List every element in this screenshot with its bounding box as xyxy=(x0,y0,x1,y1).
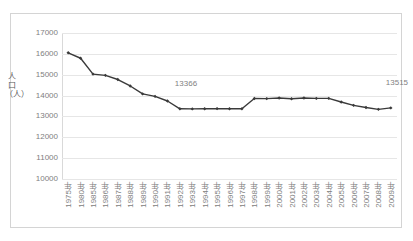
x-axis-tick-label: 1985年 xyxy=(89,182,99,208)
gridline xyxy=(62,33,397,34)
x-axis-tick-label: 1991年 xyxy=(163,182,173,208)
gridline xyxy=(62,137,397,138)
y-axis-tick-label: 16000 xyxy=(18,50,58,58)
y-axis-tick-label: 13000 xyxy=(18,112,58,120)
x-axis-tick-label: 1987年 xyxy=(114,182,124,208)
x-axis-tick-label: 1989年 xyxy=(139,182,149,208)
x-axis-tick-label: 2003年 xyxy=(312,182,322,208)
y-axis-tick-label: 15000 xyxy=(18,71,58,79)
x-axis-tick-label: 1992年 xyxy=(176,182,186,208)
y-axis-tick-label: 17000 xyxy=(18,29,58,37)
x-axis-tick-label: 1975年 xyxy=(64,182,74,208)
y-axis-title: 人口（人） xyxy=(5,72,19,99)
x-axis-tick-label: 2006年 xyxy=(350,182,360,208)
x-axis-tick-label: 2009年 xyxy=(387,182,397,208)
gridline xyxy=(62,116,397,117)
x-axis-tick-label: 1996年 xyxy=(226,182,236,208)
y-axis-tick-label: 11000 xyxy=(18,154,58,162)
x-axis-tick-label: 2001年 xyxy=(288,182,298,208)
x-axis-tick-label: 2007年 xyxy=(362,182,372,208)
x-axis-tick-label: 1988年 xyxy=(126,182,136,208)
x-axis-tick-label: 2000年 xyxy=(275,182,285,208)
x-axis-tick-label: 1994年 xyxy=(201,182,211,208)
x-axis-tick-label: 1999年 xyxy=(263,182,273,208)
x-axis-tick-label: 1995年 xyxy=(213,182,223,208)
x-axis-tick-label: 2008年 xyxy=(374,182,384,208)
x-axis-tick-label: 1998年 xyxy=(250,182,260,208)
y-axis-tick-label: 10000 xyxy=(18,175,58,183)
x-axis-tick-labels: 1975年1980年1985年1986年1987年1988年1989年1990年… xyxy=(62,182,397,240)
y-axis-tick-labels: 1700016000150001400013000120001100010000 xyxy=(16,0,58,241)
gridline xyxy=(62,179,397,180)
x-axis-tick-label: 2004年 xyxy=(325,182,335,208)
x-axis-tick-label: 1990年 xyxy=(151,182,161,208)
x-axis-tick-label: 1980年 xyxy=(77,182,87,208)
data-label-13366: 13366 xyxy=(175,80,197,88)
plot-area xyxy=(62,33,397,179)
gridline xyxy=(62,54,397,55)
gridline xyxy=(62,158,397,159)
x-axis-tick-label: 1986年 xyxy=(101,182,111,208)
x-axis-tick-label: 1997年 xyxy=(238,182,248,208)
gridline xyxy=(62,96,397,97)
gridline xyxy=(62,75,397,76)
y-axis-tick-label: 12000 xyxy=(18,133,58,141)
x-axis-tick-label: 2002年 xyxy=(300,182,310,208)
data-label-13515: 13515 xyxy=(386,79,408,87)
x-axis-tick-label: 1993年 xyxy=(188,182,198,208)
x-axis-tick-label: 2005年 xyxy=(337,182,347,208)
